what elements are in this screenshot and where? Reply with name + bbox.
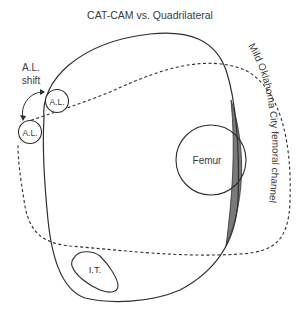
- femoral-channel-shading: [226, 100, 242, 246]
- femoral-channel-label: Mild Oklahoma City femoral channel: [246, 41, 281, 203]
- arrowhead-upper-icon: [40, 89, 45, 95]
- diagram-canvas: CAT-CAM vs. Quadrilateral Femur A.L. A.L…: [0, 0, 299, 317]
- al-shift-label-line1: A.L.: [22, 62, 40, 73]
- it-label: I.T.: [89, 264, 102, 275]
- femur-label: Femur: [193, 155, 223, 166]
- arrowhead-lower-icon: [20, 115, 26, 121]
- al-shift-label-line2: shift: [22, 75, 41, 86]
- al-upper-label: A.L.: [49, 97, 64, 107]
- al-shift-arrow-icon: [22, 92, 43, 118]
- femoral-channel-label-path: Mild Oklahoma City femoral channel: [246, 41, 281, 203]
- diagram-title: CAT-CAM vs. Quadrilateral: [87, 9, 213, 21]
- al-lower-label: A.L.: [22, 128, 37, 138]
